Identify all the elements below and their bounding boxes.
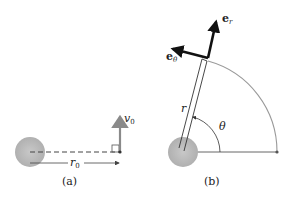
etheta-label: eθ: [166, 51, 177, 64]
r0-label: r0: [70, 157, 80, 170]
particle-a: [118, 150, 121, 153]
panel-b: [168, 22, 279, 167]
etheta-subscript: θ: [173, 56, 177, 64]
diagram-canvas: [0, 0, 291, 199]
er-subscript: r: [229, 18, 232, 26]
planet-b: [168, 137, 198, 167]
etheta-symbol: e: [166, 50, 173, 63]
er-label: er: [222, 13, 232, 26]
right-angle-marker: [112, 145, 119, 152]
velocity-subscript: 0: [130, 118, 134, 126]
panel-a: [15, 117, 122, 167]
r-label: r: [181, 103, 186, 114]
radius-rod-right: [184, 61, 207, 151]
unit-vector-er: [208, 22, 216, 58]
er-symbol: e: [222, 12, 229, 25]
r0-subscript: 0: [75, 162, 79, 170]
orbit-arc: [208, 61, 277, 152]
theta-label: θ: [219, 121, 226, 132]
caption-b: (b): [204, 176, 220, 187]
radius-rod-cap: [202, 59, 207, 61]
velocity-label: v0: [124, 113, 135, 126]
caption-a: (a): [62, 176, 77, 187]
unit-vector-etheta: [173, 49, 208, 58]
reference-point: [275, 150, 278, 153]
